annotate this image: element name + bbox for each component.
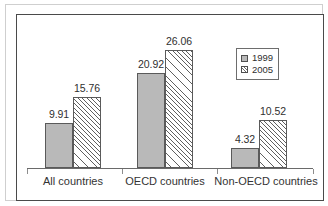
axis-tick-end xyxy=(313,169,314,174)
legend-label-1999: 1999 xyxy=(252,53,273,63)
bar-oecd-countries-2005[interactable] xyxy=(165,50,193,168)
data-label-all-countries-2005: 15.76 xyxy=(70,82,104,94)
data-label-oecd-countries-2005: 26.06 xyxy=(162,35,196,47)
category-label-non-oecd-countries: Non-OECD countries xyxy=(211,175,321,187)
legend-entry-2005[interactable]: 2005 xyxy=(241,64,273,75)
hatched-swatch-icon xyxy=(241,66,248,73)
legend-label-2005: 2005 xyxy=(252,65,273,75)
bar-non-oecd-countries-1999[interactable] xyxy=(231,148,259,168)
data-label-all-countries-1999: 9.91 xyxy=(44,108,74,120)
bar-all-countries-2005[interactable] xyxy=(73,97,101,168)
bar-oecd-countries-1999[interactable] xyxy=(137,73,165,168)
chart-legend[interactable]: 1999 2005 xyxy=(236,48,279,80)
bar-non-oecd-countries-2005[interactable] xyxy=(259,120,287,168)
outer-frame: 9.91 15.76 All countries 20.92 26.06 OEC… xyxy=(5,4,323,201)
axis-tick-2 xyxy=(217,169,218,174)
category-label-all-countries: All countries xyxy=(33,175,113,187)
plot-area: 9.91 15.76 All countries 20.92 26.06 OEC… xyxy=(17,15,323,200)
data-label-non-oecd-countries-1999: 4.32 xyxy=(230,133,260,145)
legend-entry-1999[interactable]: 1999 xyxy=(241,53,273,64)
axis-tick-1 xyxy=(122,169,123,174)
category-axis-line xyxy=(27,168,313,169)
bar-all-countries-1999[interactable] xyxy=(45,123,73,168)
data-label-oecd-countries-1999: 20.92 xyxy=(134,58,168,70)
solid-gray-swatch-icon xyxy=(241,55,248,62)
data-label-non-oecd-countries-2005: 10.52 xyxy=(256,105,290,117)
figure: 9.91 15.76 All countries 20.92 26.06 OEC… xyxy=(0,0,328,206)
chart-plot-frame: 9.91 15.76 All countries 20.92 26.06 OEC… xyxy=(16,14,324,201)
category-label-oecd-countries: OECD countries xyxy=(123,175,207,187)
axis-tick-start xyxy=(27,169,28,174)
